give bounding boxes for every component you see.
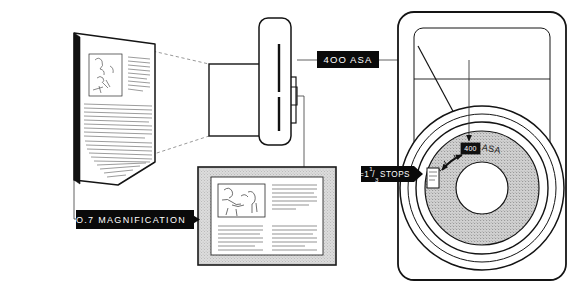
magnification-value: O.7 (76, 215, 94, 225)
original-document-page (74, 33, 155, 185)
compensation-unit: STOPS (380, 170, 410, 179)
dial-value-400: 400 (461, 143, 480, 154)
diagram-canvas: 400 ASA 4OO ASA =11/3STOPS O.7MAGNIFICAT… (0, 0, 578, 291)
extension-bellows-lens (209, 18, 297, 145)
magnified-result-print (198, 167, 336, 265)
exposure-compensation-label: =11/3STOPS (361, 166, 414, 182)
compensation-fraction: 1/3 (369, 167, 380, 180)
compensation-label-arrowhead (414, 166, 423, 182)
magnification-banner: O.7MAGNIFICATION (76, 210, 194, 229)
asa-film-speed-dial (400, 106, 564, 270)
dial-index-cursor (427, 168, 439, 188)
magnification-caption: MAGNIFICATION (98, 215, 186, 225)
film-speed-callout-label: 4OO ASA (317, 51, 379, 68)
